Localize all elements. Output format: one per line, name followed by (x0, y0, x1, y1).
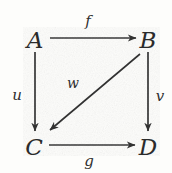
edge-label-v: v (156, 89, 164, 104)
edge-label-g: g (84, 154, 94, 169)
commutative-diagram: A B C D f u v g w (0, 0, 172, 173)
edge-label-f: f (85, 14, 91, 29)
node-label-a: A (27, 29, 44, 52)
edge-label-w: w (67, 76, 79, 90)
edge-w-arrow (50, 54, 140, 130)
node-label-d: D (139, 136, 157, 159)
node-label-c: C (25, 136, 43, 159)
node-label-b: B (140, 29, 157, 52)
edge-label-u: u (12, 88, 22, 103)
